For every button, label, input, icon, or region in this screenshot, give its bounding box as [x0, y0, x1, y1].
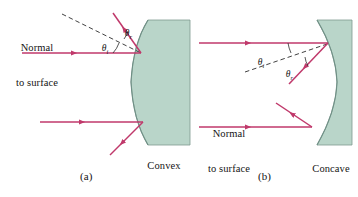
- panel-a-normal-line1: Normal: [2, 42, 72, 54]
- panel-a-theta-i-subscript: i: [106, 48, 108, 55]
- panel-a-normal-label: Normal to surface: [2, 18, 72, 100]
- lower-reflected-ray: [276, 103, 312, 127]
- panel-b-caption: (b): [258, 170, 271, 182]
- panel-b-normal-label: Normal to surface: [192, 104, 266, 186]
- panel-b-mirror-line1: Concave: [304, 163, 358, 175]
- upper-reflected-ray: [289, 43, 328, 84]
- angle-arc-incidence: [288, 43, 291, 53]
- panel-b-theta-r-subscript: r: [290, 74, 293, 81]
- panel-a-mirror-label: Convex mirror: [136, 136, 192, 197]
- panel-a-theta-r-subscript: r: [129, 33, 132, 40]
- panel-b-normal-line2: to surface: [192, 163, 266, 175]
- panel-a-mirror-line2: mirror: [136, 195, 192, 197]
- panel-b-mirror-label: Concave mirror: [304, 139, 358, 197]
- panel-a-caption: (a): [80, 170, 93, 182]
- panel-b-angle-reflection: θr: [281, 59, 293, 81]
- panel-a-angle-incidence: θi: [97, 33, 108, 55]
- panel-a-normal-line2: to surface: [2, 77, 72, 89]
- panel-b-normal-line1: Normal: [192, 128, 266, 140]
- panel-b-angle-incidence: θi: [253, 47, 264, 69]
- panel-a-mirror-line1: Convex: [136, 160, 192, 172]
- panel-b-theta-i-subscript: i: [262, 62, 264, 69]
- angle-arc-incidence: [113, 43, 119, 53]
- concave-mirror-shape: [317, 20, 352, 145]
- panel-a-angle-reflection: θr: [120, 18, 132, 40]
- convex-mirror-shape: [131, 20, 190, 145]
